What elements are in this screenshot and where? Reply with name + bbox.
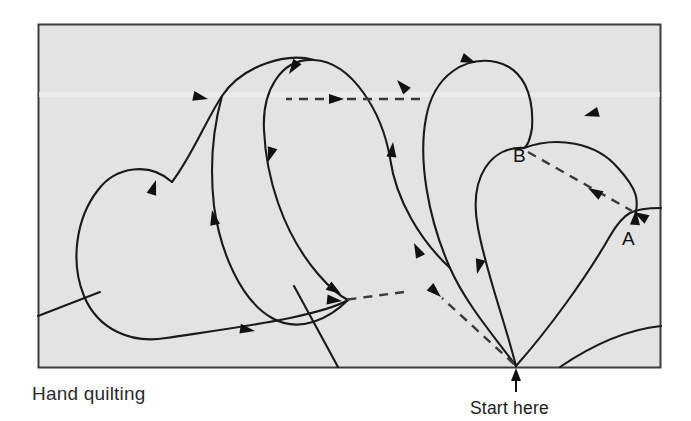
point-label-b: B xyxy=(513,145,526,166)
paper-band xyxy=(39,92,660,97)
hand-quilting-figure: B A Start here Hand quilting xyxy=(0,0,691,421)
quilting-diagram-svg: B A Start here Hand quilting xyxy=(0,0,691,421)
start-here-label: Start here xyxy=(470,398,549,418)
point-label-a: A xyxy=(622,228,635,249)
figure-caption: Hand quilting xyxy=(32,383,146,404)
